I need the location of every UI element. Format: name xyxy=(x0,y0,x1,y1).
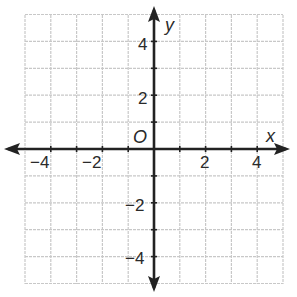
x-tick-label: 4 xyxy=(252,153,261,172)
x-axis-label: x xyxy=(265,126,276,146)
y-tick-label: −2 xyxy=(125,196,144,215)
y-axis-label: y xyxy=(163,15,175,35)
y-tick-label: −4 xyxy=(125,249,144,268)
coordinate-plane: x y O −4 −2 2 4 4 2 −2 −4 xyxy=(0,0,297,297)
x-tick-label: −4 xyxy=(30,153,49,172)
y-tick-label: 4 xyxy=(138,35,147,54)
y-tick-label: 2 xyxy=(138,89,147,108)
x-tick-label: −2 xyxy=(82,153,101,172)
origin-label: O xyxy=(133,127,147,147)
x-tick-label: 2 xyxy=(200,153,209,172)
